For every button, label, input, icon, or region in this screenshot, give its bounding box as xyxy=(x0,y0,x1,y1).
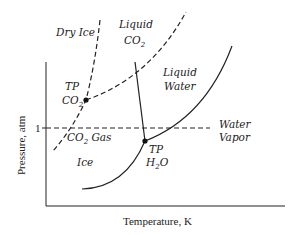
label-ice: Ice xyxy=(76,156,93,168)
label-water-vapor-1: Water xyxy=(219,118,252,130)
x-axis-label: Temperature, K xyxy=(123,215,192,227)
label-water-vapor-2: Vapor xyxy=(219,131,251,143)
y-tick-label-1: 1 xyxy=(35,122,41,134)
label-tp-co2-2: CO2 xyxy=(62,94,84,109)
water-melting-line xyxy=(135,62,145,141)
label-liquid-co2-2: CO2 xyxy=(124,34,146,49)
label-dry-ice: Dry Ice xyxy=(55,26,95,38)
tp-co2-marker xyxy=(83,97,88,102)
label-liquid-water-1: Liquid xyxy=(162,66,197,78)
label-tp-h2o-1: TP xyxy=(149,143,164,155)
y-axis-label: Pressure, atm xyxy=(15,115,27,175)
label-liquid-water-2: Water xyxy=(164,80,197,92)
label-tp-h2o-2: H2O xyxy=(145,156,169,171)
label-liquid-co2-1: Liquid xyxy=(118,18,153,30)
tp-h2o-marker xyxy=(142,138,147,143)
label-co2-gas: CO2 Gas xyxy=(67,131,112,146)
label-tp-co2-1: TP xyxy=(65,80,80,92)
phase-diagram: Dry Ice Liquid CO2 Liquid Water CO2 Gas … xyxy=(0,0,299,235)
